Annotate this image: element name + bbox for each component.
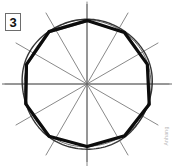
figure-number-label: 3 — [9, 16, 16, 29]
figure-page: 3 Anhang — [0, 0, 174, 166]
watermark: Anhang — [161, 114, 171, 158]
figure-number-box: 3 — [5, 13, 21, 31]
watermark-label: Anhang — [163, 126, 169, 145]
geometry-diagram — [0, 0, 174, 166]
